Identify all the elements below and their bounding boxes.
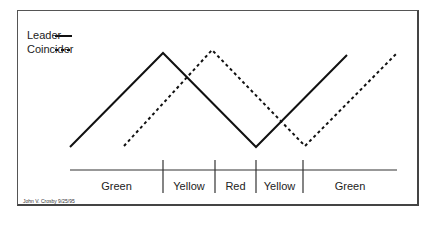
- legend-leader-label: Leader: [27, 29, 61, 41]
- author-credit: John V. Crosby 9/25/95: [23, 198, 75, 204]
- coincider-line: [124, 50, 397, 146]
- zone-green-1: Green: [70, 180, 163, 192]
- legend-coincider-label: Coincider: [27, 43, 73, 55]
- leader-line: [70, 53, 347, 147]
- zone-yellow-1: Yellow: [163, 180, 215, 192]
- zone-red: Red: [215, 180, 256, 192]
- zone-green-2: Green: [303, 180, 397, 192]
- zone-yellow-2: Yellow: [256, 180, 303, 192]
